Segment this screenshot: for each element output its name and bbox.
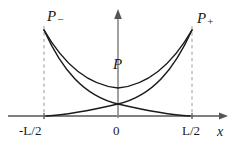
x-axis-arrowhead (219, 113, 228, 120)
tick-label-negative-half-L: -L/2 (19, 124, 41, 137)
label-p-plus: P+ (197, 11, 213, 27)
y-axis-arrowhead (114, 9, 122, 19)
axis-label-x: x (217, 125, 223, 139)
curve-branch-p-plus (46, 30, 192, 116)
label-p-middle: P (113, 57, 122, 72)
label-p-minus: P− (47, 9, 63, 25)
tick-label-origin: 0 (113, 124, 120, 137)
curve-branch-p-minus (44, 30, 190, 116)
tick-label-positive-half-L: L/2 (182, 124, 200, 137)
